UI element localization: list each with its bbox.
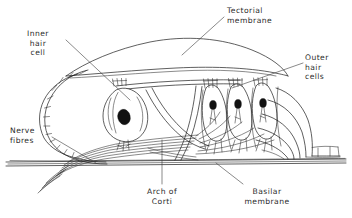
label-arch-of-corti: Arch of Corti [133,187,191,206]
arch-of-corti [146,86,209,160]
label-outer-hair-cells: Outer hair cells [305,53,349,82]
label-tectorial-membrane: Tectorial membrane [227,6,311,25]
leader-outer-hair-cells [232,63,303,88]
leader-tectorial-membrane [182,17,224,55]
inner-hair-cell [103,78,148,151]
leader-basilar-membrane [216,163,243,184]
tectorial-membrane [66,38,288,78]
label-basilar-membrane: Basilar membrane [233,187,301,206]
basilar-membrane [6,158,346,166]
label-nerve-fibres: Nerve fibres [10,126,56,145]
outer-hair-cell-2 [227,78,252,153]
organ-of-corti-figure: Inner hair cell Tectorial membrane Outer… [0,0,352,218]
label-inner-hair-cell: Inner hair cell [14,29,62,58]
reticular-lamina [116,80,240,90]
outer-hair-cell-1 [202,79,227,155]
